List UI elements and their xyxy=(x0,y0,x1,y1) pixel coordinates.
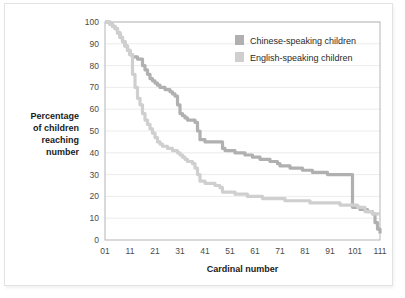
x-axis-tick-labels: 01112131415161718191101111 xyxy=(100,246,386,256)
chart-svg: 0102030405060708090100 01112131415161718… xyxy=(5,4,394,287)
x-tick-label: 01 xyxy=(100,246,110,256)
chart-plot-area: 0102030405060708090100 01112131415161718… xyxy=(5,4,394,287)
legend-swatch xyxy=(235,52,244,62)
x-tick-label: 111 xyxy=(374,246,387,256)
y-tick-label: 40 xyxy=(90,148,100,158)
y-axis-title-line: number xyxy=(46,147,80,157)
legend-label: English-speaking children xyxy=(250,53,353,63)
x-tick-label: 61 xyxy=(250,246,260,256)
y-axis-title-line: of children xyxy=(33,123,79,133)
x-tick-label: 71 xyxy=(275,246,285,256)
x-tick-label: 81 xyxy=(300,246,310,256)
y-tick-label: 90 xyxy=(90,39,100,49)
figure-card: 0102030405060708090100 01112131415161718… xyxy=(4,3,393,286)
x-axis-title: Cardinal number xyxy=(207,264,279,274)
y-tick-label: 60 xyxy=(90,104,100,114)
y-tick-label: 50 xyxy=(90,126,100,136)
x-tick-label: 41 xyxy=(200,246,210,256)
y-axis-title-line: Percentage xyxy=(30,111,79,121)
x-tick-label: 51 xyxy=(225,246,235,256)
y-axis-title: Percentageof childrenreachingnumber xyxy=(30,111,79,157)
y-tick-label: 70 xyxy=(90,82,100,92)
y-tick-label: 0 xyxy=(94,235,99,245)
x-tick-label: 91 xyxy=(325,246,335,256)
y-axis-title-line: reaching xyxy=(41,135,79,145)
series-line xyxy=(105,22,380,214)
chart-legend: Chinese-speaking childrenEnglish-speakin… xyxy=(235,35,356,63)
x-tick-label: 11 xyxy=(126,246,135,256)
y-tick-label: 10 xyxy=(90,213,100,223)
y-tick-label: 100 xyxy=(85,17,99,27)
y-tick-label: 80 xyxy=(90,61,100,71)
y-tick-label: 20 xyxy=(90,191,100,201)
x-tick-label: 31 xyxy=(175,246,185,256)
x-axis-title-text: Cardinal number xyxy=(207,264,279,274)
legend-swatch xyxy=(235,35,244,45)
y-axis-tick-labels: 0102030405060708090100 xyxy=(85,17,99,245)
y-tick-label: 30 xyxy=(90,170,100,180)
x-tick-label: 101 xyxy=(348,246,362,256)
x-tick-label: 21 xyxy=(150,246,160,256)
legend-label: Chinese-speaking children xyxy=(250,36,356,46)
